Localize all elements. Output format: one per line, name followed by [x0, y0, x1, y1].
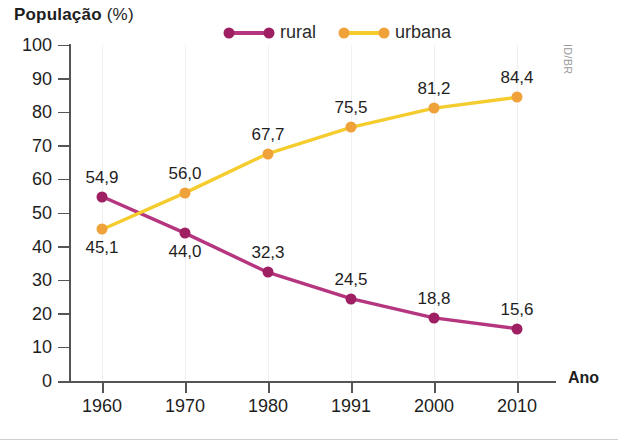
- x-axis-title: Ano: [568, 369, 599, 387]
- data-point-urbana-2010[interactable]: [512, 92, 523, 103]
- x-tick-label: 2010: [497, 396, 537, 417]
- y-tick-label: 0: [42, 371, 52, 392]
- y-tick-label: 40: [32, 236, 52, 257]
- x-tick-label: 1970: [165, 396, 205, 417]
- data-point-urbana-1960[interactable]: [97, 224, 108, 235]
- data-point-urbana-1980[interactable]: [263, 148, 274, 159]
- x-tick: [434, 383, 436, 393]
- data-point-rural-1980[interactable]: [263, 267, 274, 278]
- data-point-urbana-1970[interactable]: [180, 187, 191, 198]
- y-tick: [58, 280, 69, 282]
- y-tick: [58, 45, 69, 47]
- y-tick-label: 10: [32, 337, 52, 358]
- credit-watermark: ID/BR: [562, 44, 574, 75]
- data-label-rural-1991: 24,5: [334, 270, 367, 290]
- data-point-urbana-1991[interactable]: [346, 122, 357, 133]
- x-tick: [185, 383, 187, 393]
- data-point-rural-1970[interactable]: [180, 228, 191, 239]
- y-tick: [58, 112, 69, 114]
- x-tick-label: 1980: [248, 396, 288, 417]
- y-tick: [58, 313, 69, 315]
- data-point-rural-1991[interactable]: [346, 293, 357, 304]
- chart-figure: População (%) ID/BR rural urbana 0102030…: [0, 0, 618, 440]
- legend-label-urbana: urbana: [395, 22, 451, 43]
- y-tick: [58, 347, 69, 349]
- x-tick: [268, 383, 270, 393]
- series-line-rural: [102, 197, 517, 329]
- chart-legend: rural urbana: [225, 22, 451, 43]
- x-tick-label: 2000: [414, 396, 454, 417]
- data-point-rural-2000[interactable]: [429, 312, 440, 323]
- legend-label-rural: rural: [280, 22, 316, 43]
- chart-title: População (%): [14, 5, 134, 25]
- y-tick-label: 30: [32, 270, 52, 291]
- data-label-urbana-1960: 45,1: [85, 238, 118, 258]
- plot-area: 54,944,032,324,518,815,645,156,067,775,5…: [70, 45, 523, 382]
- series-lines: [70, 45, 523, 382]
- data-label-rural-2010: 15,6: [500, 300, 533, 320]
- series-line-urbana: [102, 97, 517, 229]
- y-tick-label: 80: [32, 102, 52, 123]
- y-tick: [58, 179, 69, 181]
- data-label-rural-1970: 44,0: [168, 242, 201, 262]
- data-label-urbana-1980: 67,7: [251, 125, 284, 145]
- data-label-rural-2000: 18,8: [417, 289, 450, 309]
- chart-title-bold: População: [14, 5, 102, 24]
- data-label-rural-1960: 54,9: [85, 168, 118, 188]
- y-tick-label: 50: [32, 203, 52, 224]
- y-tick-label: 70: [32, 135, 52, 156]
- x-tick-label: 1960: [82, 396, 122, 417]
- y-tick: [58, 145, 69, 147]
- x-tick: [102, 383, 104, 393]
- y-tick-label: 20: [32, 303, 52, 324]
- data-label-urbana-1991: 75,5: [334, 98, 367, 118]
- data-point-rural-2010[interactable]: [512, 323, 523, 334]
- legend-item-rural[interactable]: rural: [225, 22, 316, 43]
- legend-swatch-urbana: [340, 26, 388, 40]
- x-tick: [517, 383, 519, 393]
- y-tick-label: 100: [22, 35, 52, 56]
- x-tick: [351, 383, 353, 393]
- data-label-urbana-1970: 56,0: [168, 164, 201, 184]
- legend-swatch-rural: [225, 26, 273, 40]
- data-label-rural-1980: 32,3: [251, 243, 284, 263]
- y-tick: [58, 246, 69, 248]
- x-tick-label: 1991: [331, 396, 371, 417]
- y-tick: [58, 78, 69, 80]
- data-point-rural-1960[interactable]: [97, 191, 108, 202]
- data-label-urbana-2010: 84,4: [500, 68, 533, 88]
- y-tick-label: 60: [32, 169, 52, 190]
- data-label-urbana-2000: 81,2: [417, 79, 450, 99]
- legend-item-urbana[interactable]: urbana: [340, 22, 451, 43]
- y-tick-label: 90: [32, 68, 52, 89]
- x-axis-line: [58, 381, 556, 383]
- data-point-urbana-2000[interactable]: [429, 103, 440, 114]
- y-tick: [58, 213, 69, 215]
- chart-title-unit: (%): [107, 5, 134, 24]
